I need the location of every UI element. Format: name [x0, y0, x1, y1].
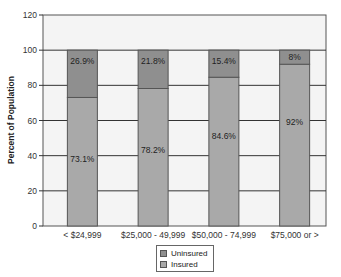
value-label-uninsured: 21.8%	[141, 56, 166, 66]
value-label-insured: 92%	[286, 117, 303, 127]
y-tick-label: 0	[32, 221, 37, 231]
value-label-insured: 73.1%	[70, 154, 95, 164]
y-tick-label: 20	[28, 186, 38, 196]
value-label-uninsured: 15.4%	[212, 56, 237, 66]
x-axis-ticks: < $24,999$25,000 - 49,999$50,000 - 74,99…	[63, 230, 318, 240]
stacked-bar-chart: 020406080100120 26.9%73.1%21.8%78.2%15.4…	[0, 0, 341, 277]
legend-label-uninsured: Uninsured	[171, 249, 207, 258]
value-label-insured: 78.2%	[141, 145, 166, 155]
y-axis-label: Percent of Population	[6, 76, 16, 164]
y-tick-label: 80	[28, 80, 38, 90]
y-tick-label: 100	[23, 45, 37, 55]
insured-swatch	[160, 261, 167, 268]
value-label-uninsured: 26.9%	[70, 56, 95, 66]
uninsured-swatch	[160, 250, 167, 257]
y-tick-label: 120	[23, 10, 37, 20]
x-tick-label: $25,000 - 49,999	[121, 230, 186, 240]
x-tick-label: $50,000 - 74,999	[192, 230, 257, 240]
y-axis-ticks: 020406080100120	[23, 10, 43, 231]
bar-insured	[209, 77, 239, 226]
y-tick-label: 60	[28, 116, 38, 126]
legend-label-insured: Insured	[171, 260, 198, 269]
legend: Uninsured Insured	[156, 245, 214, 272]
legend-item-insured: Insured	[160, 259, 210, 270]
value-label-uninsured: 8%	[288, 52, 301, 62]
legend-item-uninsured: Uninsured	[160, 248, 210, 259]
bar-insured	[138, 88, 168, 226]
x-tick-label: $75,000 or >	[271, 230, 319, 240]
x-tick-label: < $24,999	[63, 230, 101, 240]
value-label-insured: 84.6%	[212, 131, 237, 141]
y-tick-label: 40	[28, 151, 38, 161]
bar-insured	[280, 64, 310, 226]
